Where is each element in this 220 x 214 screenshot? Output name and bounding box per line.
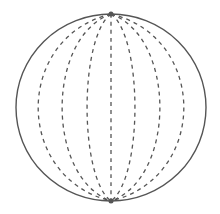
- meridian-lines: [38, 14, 184, 201]
- meridian-line: [38, 14, 111, 201]
- top-pole: [109, 12, 114, 17]
- sphere-diagram: [0, 0, 220, 214]
- sphere-outline: [16, 14, 206, 201]
- bottom-pole: [109, 199, 114, 204]
- meridian-line: [111, 14, 135, 201]
- meridian-line: [87, 14, 111, 201]
- meridian-line: [111, 14, 184, 201]
